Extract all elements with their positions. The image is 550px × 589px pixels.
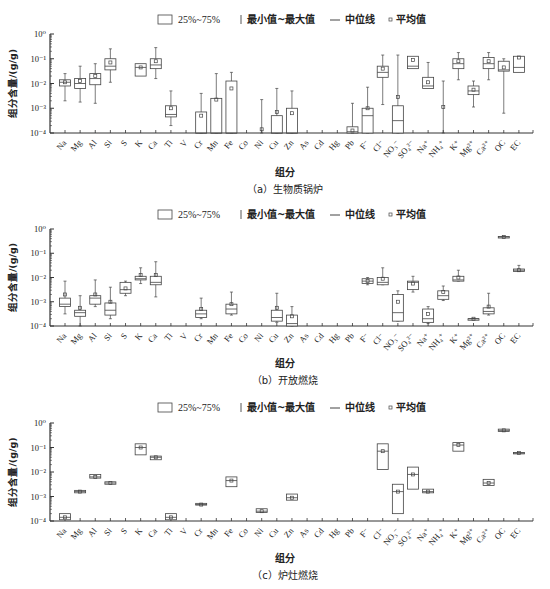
x-tick-label: Ni xyxy=(252,330,266,343)
x-tick-label: OC xyxy=(492,526,507,542)
x-tick-label: NH₄⁺ xyxy=(426,331,446,353)
x-tick-label: Hg xyxy=(327,525,342,540)
x-axis-label: 组分 xyxy=(275,552,295,564)
x-tick-label: K xyxy=(133,330,145,342)
x-tick-label: Co xyxy=(236,331,250,345)
x-tick-label: Fe xyxy=(222,526,235,539)
x-tick-label: Na xyxy=(54,526,68,540)
iqr-box xyxy=(75,310,86,316)
panel-a-title: （a）生物质锅炉 xyxy=(247,183,323,195)
iqr-box xyxy=(377,444,388,470)
x-tick-label: Cd xyxy=(312,330,327,345)
iqr-box xyxy=(423,77,434,88)
y-tick-label: 10⁻⁴ xyxy=(30,516,46,526)
y-axis-label: 组分含量/(g/g) xyxy=(7,49,18,118)
x-tick-label: Cr xyxy=(192,138,205,151)
y-tick-label: 10⁻³ xyxy=(30,103,46,113)
y-axis-label: 组分含量/(g/g) xyxy=(7,243,18,312)
iqr-box xyxy=(483,308,494,314)
legend-range-text: 最小值~最大值 xyxy=(247,401,315,413)
legend-mean-text: 平均值 xyxy=(396,208,426,220)
x-axis-label: 组分 xyxy=(275,357,295,369)
iqr-box xyxy=(377,66,388,77)
iqr-box xyxy=(90,296,101,304)
x-tick-label: S xyxy=(118,526,129,536)
iqr-box xyxy=(150,59,161,69)
x-tick-label: Pb xyxy=(343,138,356,151)
x-tick-label: OC xyxy=(492,331,507,347)
y-tick-label: 10⁻³ xyxy=(30,492,46,502)
y-tick-label: 10⁻² xyxy=(30,273,46,283)
x-tick-label: OC xyxy=(492,138,507,154)
x-tick-label: Ca²⁺ xyxy=(474,138,492,157)
x-tick-label: Hg xyxy=(327,330,342,345)
x-tick-label: SO₄²⁻ xyxy=(395,526,416,548)
x-tick-label: F⁻ xyxy=(358,526,372,539)
legend-median-text: 中位线 xyxy=(345,401,375,413)
x-tick-label: Mg²⁺ xyxy=(457,526,477,547)
iqr-box xyxy=(407,56,418,68)
x-tick-label: Ni xyxy=(252,137,266,150)
x-tick-label: SO₄²⁻ xyxy=(395,331,416,353)
x-tick-label: Cu xyxy=(266,330,281,345)
x-tick-label: EC xyxy=(508,138,523,153)
x-tick-label: Al xyxy=(86,525,100,538)
y-tick-label: 10⁻² xyxy=(30,79,46,89)
iqr-box xyxy=(90,74,101,85)
x-tick-label: Mn xyxy=(205,330,221,346)
x-tick-label: Ti xyxy=(162,330,175,342)
x-tick-label: Mg²⁺ xyxy=(457,138,477,159)
iqr-box xyxy=(150,456,161,460)
x-tick-label: V xyxy=(178,330,190,342)
y-tick-label: 10⁻¹ xyxy=(30,54,46,64)
iqr-box xyxy=(165,106,176,117)
legend-box-icon xyxy=(158,15,172,24)
x-tick-label: As xyxy=(297,138,311,152)
x-tick-label: As xyxy=(297,526,311,540)
x-tick-label: EC xyxy=(508,526,523,541)
x-tick-label: Si xyxy=(102,330,115,342)
x-tick-label: Ti xyxy=(162,137,175,149)
iqr-box xyxy=(226,81,237,133)
legend-box-icon xyxy=(158,210,172,219)
x-tick-label: Al xyxy=(86,330,100,343)
x-tick-label: Cr xyxy=(192,331,205,344)
x-tick-label: NH₄⁺ xyxy=(426,526,446,548)
x-tick-label: Pb xyxy=(343,526,356,539)
panel-b-title: （b）开放燃烧 xyxy=(252,374,318,386)
iqr-box xyxy=(120,282,131,293)
x-tick-label: Cu xyxy=(266,137,281,152)
x-tick-label: Na xyxy=(54,138,68,152)
x-tick-label: Ca²⁺ xyxy=(474,331,492,350)
iqr-box xyxy=(60,298,71,306)
x-tick-label: Na xyxy=(54,331,68,345)
x-tick-label: V xyxy=(178,525,190,537)
x-tick-label: Ca xyxy=(146,526,160,540)
legend-median-text: 中位线 xyxy=(345,208,375,220)
legend-range-text: 最小值~最大值 xyxy=(247,208,315,220)
y-tick-label: 10⁻² xyxy=(30,467,46,477)
x-tick-label: Cd xyxy=(312,525,327,540)
iqr-box xyxy=(392,484,403,513)
y-tick-label: 10⁻¹ xyxy=(30,443,46,453)
x-tick-label: Mn xyxy=(205,137,221,153)
x-tick-label: Ca xyxy=(146,138,160,152)
iqr-box xyxy=(105,59,116,70)
x-tick-label: Mg²⁺ xyxy=(457,331,477,352)
x-tick-label: NH₄⁺ xyxy=(426,138,446,160)
iqr-box xyxy=(438,291,449,299)
legend-median-text: 中位线 xyxy=(345,13,375,25)
x-tick-label: F⁻ xyxy=(358,331,372,344)
x-tick-label: Co xyxy=(236,526,250,540)
x-tick-label: SO₄²⁻ xyxy=(395,138,416,160)
x-tick-label: Cu xyxy=(266,525,281,540)
x-tick-label: Al xyxy=(86,137,100,150)
y-tick-label: 10⁻¹ xyxy=(30,248,46,258)
panel-c-title: （c）炉灶燃烧 xyxy=(252,569,318,581)
x-tick-label: Ca xyxy=(146,331,160,345)
iqr-box xyxy=(392,294,403,321)
x-tick-label: S xyxy=(118,331,129,341)
x-tick-label: Mg xyxy=(68,137,84,153)
x-tick-label: Zn xyxy=(282,525,296,539)
iqr-box xyxy=(211,98,222,133)
